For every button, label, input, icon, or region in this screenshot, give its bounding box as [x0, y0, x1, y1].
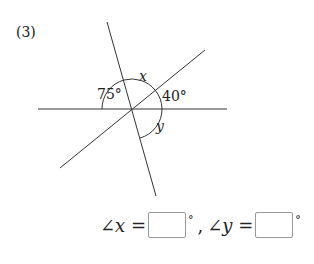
- answer-row: ∠x = ° , ∠y = °: [100, 210, 305, 240]
- x-answer-input[interactable]: [148, 212, 186, 238]
- separator: ,: [198, 215, 204, 236]
- x-degree: °: [188, 214, 194, 227]
- y-degree: °: [295, 214, 301, 227]
- label-x: x: [139, 68, 147, 84]
- label-75: 75°: [97, 86, 122, 102]
- x-prefix: ∠x =: [100, 215, 146, 236]
- arc-40: [155, 90, 162, 109]
- label-40: 40°: [162, 88, 187, 104]
- y-answer-input[interactable]: [255, 212, 293, 238]
- label-y: y: [156, 118, 164, 134]
- y-prefix: ∠y =: [207, 215, 253, 236]
